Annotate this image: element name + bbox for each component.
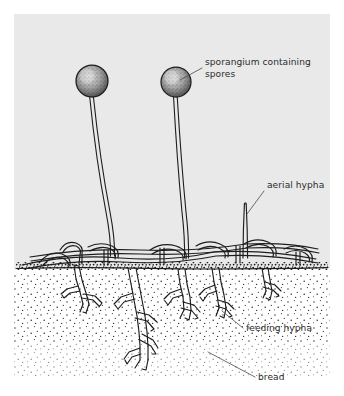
sporangium-right (161, 67, 191, 97)
label-feeding-hypha: feeding hypha (246, 323, 312, 333)
label-sporangium-line1: sporangium containing (205, 57, 311, 67)
sporangium-left (76, 65, 108, 97)
label-bread: bread (258, 372, 285, 382)
bread-mould-figure: sporangium containing spores aerial hyph… (0, 0, 344, 396)
label-aerial-hypha: aerial hypha (267, 180, 324, 190)
bread-mould-illustration: sporangium containing spores aerial hyph… (0, 0, 344, 396)
label-sporangium-line2: spores (205, 69, 235, 79)
